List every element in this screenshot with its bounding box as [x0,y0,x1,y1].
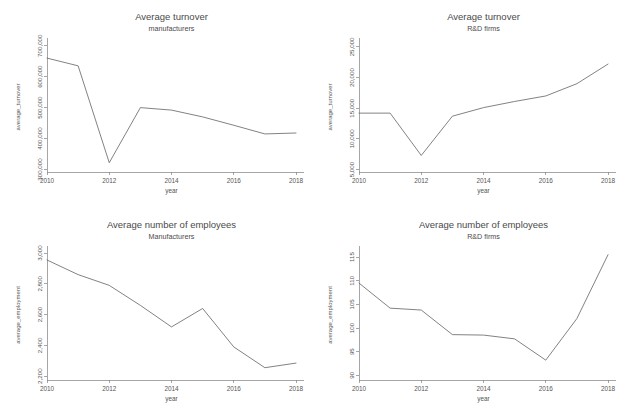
x-tick-label: 2016 [227,385,242,392]
x-axis-title: year [477,395,490,403]
y-tick-label: 15,000 [348,98,355,117]
series-line-average_employment [359,255,608,360]
chart-svg-employees-manufacturers: Average number of employeesManufacturers… [0,208,312,415]
chart-subtitle: Manufacturers [149,232,195,241]
y-axis-title: average_turnover [15,83,21,130]
x-tick-label: 2010 [40,385,55,392]
x-tick-label: 2012 [102,177,117,184]
chart-title: Average turnover [447,11,520,22]
y-tick-label: 500,000 [36,96,43,119]
x-axis-title: year [165,395,178,403]
chart-subtitle: manufacturers [149,24,195,33]
y-axis-title: average_employment [15,286,21,344]
x-tick-label: 2010 [352,385,367,392]
y-tick-label: 20,000 [348,68,355,87]
x-tick-label: 2014 [476,177,491,184]
x-tick-label: 2010 [40,177,55,184]
chart-title: Average number of employees [107,219,236,230]
y-axis-title: average_employment [327,286,333,344]
y-tick-label: 115 [348,252,355,262]
y-tick-label: 2,800 [36,276,43,292]
y-tick-label: 10,000 [348,129,355,148]
x-tick-label: 2014 [476,385,491,392]
x-tick-label: 2016 [227,177,242,184]
chart-panel-employees-rnd-firms: Average number of employeesR&D firms9095… [312,208,624,415]
x-tick-label: 2014 [164,177,179,184]
y-tick-label: 2,400 [36,337,43,353]
y-tick-label: 25,000 [348,37,355,56]
y-tick-label: 95 [348,348,355,355]
x-axis-title: year [165,187,178,195]
series-line-average_turnover [47,58,296,163]
x-tick-label: 2014 [164,385,179,392]
chart-subtitle: R&D firms [467,232,500,241]
chart-title: Average turnover [135,11,208,22]
x-tick-label: 2012 [102,385,117,392]
y-tick-label: 700,000 [36,34,43,57]
x-tick-label: 2012 [414,177,429,184]
series-line-average_turnover [359,64,608,155]
x-axis-title: year [477,187,490,195]
x-tick-label: 2016 [539,385,554,392]
y-tick-label: 600,000 [36,65,43,88]
y-tick-label: 100 [348,322,355,333]
chart-panel-turnover-manufacturers: Average turnovermanufacturers300,000400,… [0,0,312,207]
x-tick-label: 2018 [601,177,616,184]
y-tick-label: 5,000 [348,161,355,177]
y-tick-label: 3,000 [36,245,43,261]
x-tick-label: 2018 [289,385,304,392]
chart-title: Average number of employees [419,219,548,230]
chart-panel-employees-manufacturers: Average number of employeesManufacturers… [0,208,312,415]
y-tick-label: 110 [348,275,355,285]
x-tick-label: 2012 [414,385,429,392]
x-tick-label: 2018 [289,177,304,184]
y-axis-title: average_turnover [327,83,333,130]
chart-svg-turnover-rnd-firms: Average turnoverR&D firms5,00010,00015,0… [312,0,624,207]
chart-svg-turnover-manufacturers: Average turnovermanufacturers300,000400,… [0,0,312,207]
figure-canvas: Average turnovermanufacturers300,000400,… [0,0,624,415]
x-tick-label: 2010 [352,177,367,184]
chart-panel-turnover-rnd-firms: Average turnoverR&D firms5,00010,00015,0… [312,0,624,207]
y-tick-label: 90 [348,371,355,378]
chart-svg-employees-rnd-firms: Average number of employeesR&D firms9095… [312,208,624,415]
x-tick-label: 2016 [539,177,554,184]
y-tick-label: 2,200 [36,368,43,384]
y-tick-label: 105 [348,299,355,310]
series-line-average_employment [47,260,296,368]
x-tick-label: 2018 [601,385,616,392]
chart-subtitle: R&D firms [467,24,500,33]
y-tick-label: 2,600 [36,306,43,322]
y-tick-label: 400,000 [36,127,43,150]
